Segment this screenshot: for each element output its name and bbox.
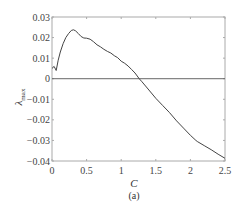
y-tick-label: 0.01 [33,53,51,64]
x-tick-label: 0.5 [80,165,93,176]
y-tick-label: −0.02 [27,114,50,125]
line-chart: 00.511.522.50.030.020.010−0.01−0.02−0.03… [0,0,241,207]
axis-ticks: 00.511.522.50.030.020.010−0.01−0.02−0.03… [27,12,231,177]
x-tick-label: 0 [50,165,55,176]
x-tick-label: 2.5 [219,165,232,176]
y-tick-label: 0.02 [33,32,51,43]
y-axis-label-sub: max [19,88,27,101]
figure-caption: (a) [128,190,139,202]
plot-frame [52,17,225,161]
data-series [52,30,225,159]
y-tick-label: 0 [45,73,50,84]
plot-border [52,17,225,161]
series-line [52,30,225,159]
y-tick-label: −0.03 [27,135,50,146]
y-tick-label: −0.04 [27,156,50,167]
x-axis-label: C [130,177,138,189]
x-tick-label: 1.5 [150,165,163,176]
y-axis-label: λmax [12,88,27,106]
y-tick-label: −0.01 [27,94,50,105]
y-tick-label: 0.03 [33,12,51,23]
x-tick-label: 2 [188,165,193,176]
x-tick-label: 1 [119,165,124,176]
